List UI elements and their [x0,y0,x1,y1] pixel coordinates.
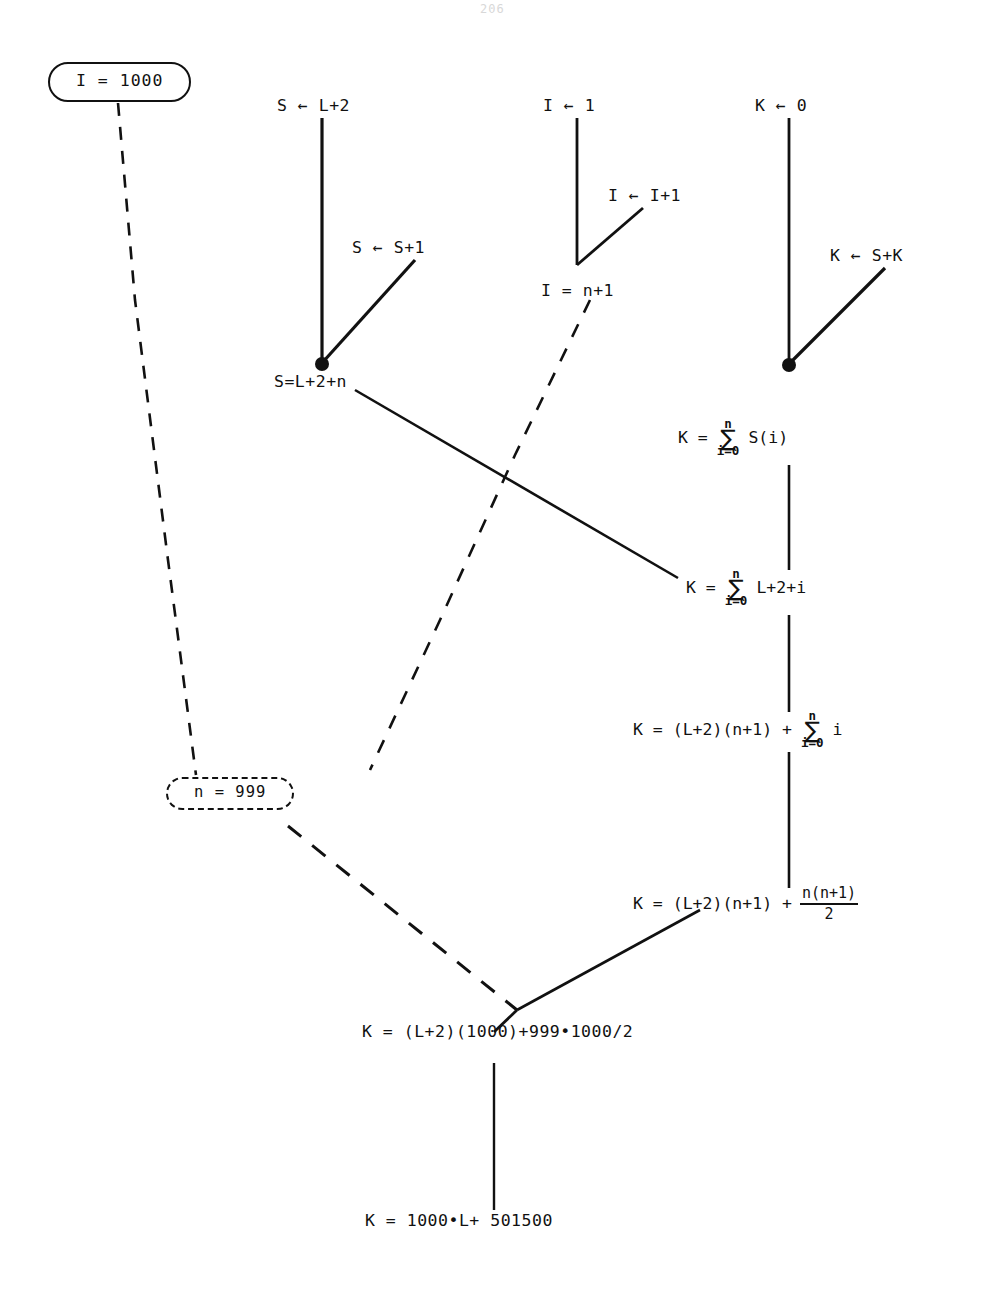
sigma-stack-k-sum-si: n ∑ i=0 [717,418,740,458]
edge-k-accum-to-junction [789,268,885,364]
sigma-lower-limit: i=0 [717,445,740,458]
node-k-init[interactable]: K ← 0 [755,98,807,115]
k-sum-si-lead: K = [678,430,708,447]
edge-i-exit-to-n-assertion [370,300,590,770]
sigma-stack-k-sum-expanded: n ∑ i=0 [725,568,748,608]
node-k-sum-si[interactable]: K = n ∑ i=0 S(i) [678,418,788,458]
k-sum-expanded-tail: L+2+i [756,580,806,597]
node-k-accum[interactable]: K ← S+K [830,248,903,265]
edge-layer [0,0,995,1290]
k-closed-lead: K = (L+2)(n+1) + [633,896,792,913]
node-i-init[interactable]: I ← 1 [543,98,595,115]
diagram-page: 206 [0,0,995,1290]
node-s-result[interactable]: S=L+2+n [274,374,347,391]
edge-input-assertion-to-n-assertion [118,103,196,775]
fraction-n-n-plus-1-over-2: n(n+1) 2 [800,886,858,922]
k-split-tail: i [833,722,843,739]
node-s-init[interactable]: S ← L+2 [277,98,350,115]
sigma-lower-limit: i=0 [801,737,824,750]
node-k-closed[interactable]: K = (L+2)(n+1) + n(n+1) 2 [633,886,858,922]
node-n-assertion[interactable]: n = 999 [166,777,294,810]
page-number: 206 [480,2,505,16]
node-k-sum-expanded[interactable]: K = n ∑ i=0 L+2+i [686,568,806,608]
node-k-final[interactable]: K = 1000•L+ 501500 [365,1213,553,1230]
fraction-denominator: 2 [825,905,834,922]
node-i-incr[interactable]: I ← I+1 [608,188,681,205]
node-s-incr[interactable]: S ← S+1 [352,240,425,257]
edge-s-incr-to-junction [322,260,415,363]
edge-n-assertion-to-bottom-junction [288,826,517,1010]
k-split-lead: K = (L+2)(n+1) + [633,722,792,739]
node-i-exit[interactable]: I = n+1 [541,283,614,300]
edge-i-incr-to-junction [577,208,643,265]
sigma-lower-limit: i=0 [725,595,748,608]
k-sum-si-tail: S(i) [748,430,788,447]
sigma-stack-k-split: n ∑ i=0 [801,710,824,750]
edge-s-result-to-k-sum-expanded [355,390,678,578]
node-k-numeric[interactable]: K = (L+2)(1000)+999•1000/2 [362,1024,633,1041]
junction-dot-s [315,357,329,371]
junction-dot-k [782,358,796,372]
node-input-assertion[interactable]: I = 1000 [48,62,191,102]
edge-k-closed-to-bottom-junction [517,910,700,1010]
k-sum-expanded-lead: K = [686,580,716,597]
node-k-split[interactable]: K = (L+2)(n+1) + n ∑ i=0 i [633,710,842,750]
fraction-numerator: n(n+1) [800,886,858,903]
